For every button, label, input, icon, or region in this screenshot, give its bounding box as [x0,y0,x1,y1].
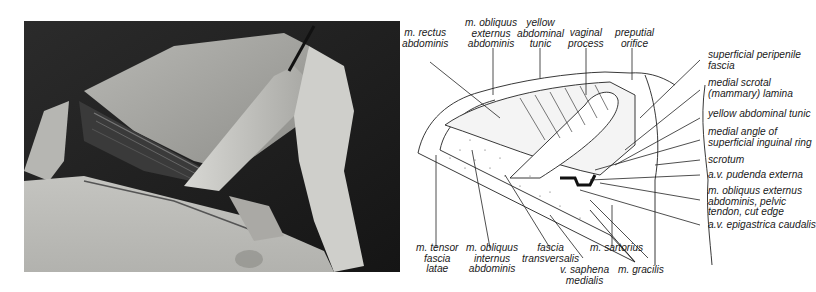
label-medial-scrotal-lamina: medial scrotal (mammary) lamina [708,78,793,99]
label-m-gracilis: m. gracilis [618,265,664,276]
label-m-rectus-abdominis: m. rectus abdominis [402,28,448,49]
label-m-tensor-fascia-latae: m. tensor fascia latae [416,243,458,275]
label-medial-angle-superficial-inguinal-ring: medial angle of superficial inguinal rin… [708,127,812,148]
photo-rendering [24,21,400,272]
label-v-saphena-medialis: v. saphena medialis [560,265,609,286]
label-vaginal-process: vaginal process [568,28,604,49]
label-m-obliquus-externus-abdominis: m. obliquus externus abdominis [465,18,517,50]
label-scrotum: scrotum [708,155,744,166]
label-yellow-abdominal-tunic-top: yellow abdominal tunic [517,18,564,50]
label-yellow-abdominal-tunic-right: yellow abdominal tunic [708,109,811,120]
label-av-pudenda-externa: a.v. pudenda externa [708,170,803,181]
label-preputial-orifice: preputial orifice [615,28,654,49]
label-fascia-transversalis: fascia transversalis [522,243,579,264]
label-av-epigastrica-caudalis: a.v. epigastrica caudalis [708,220,816,231]
label-m-obliquus-internus-abdominis: m. obliquus internus abdominis [466,243,518,275]
label-m-obliquus-externus-pelvic-tendon: m. obliquus externus abdominis, pelvic t… [708,186,802,218]
label-superficial-peripenile-fascia: superficial peripenile fascia [708,50,801,71]
label-m-sartorius: m. sartorius [590,243,643,254]
anatomical-diagram: m. rectus abdominis m. obliquus externus… [400,0,813,292]
dissection-photograph [24,21,400,272]
